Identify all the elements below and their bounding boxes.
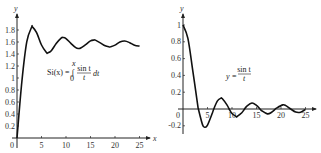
- svg-text:t: t: [243, 74, 246, 83]
- y-axis-label: y: [13, 4, 18, 13]
- y-tick-label: 1.8: [5, 26, 15, 35]
- chart-si: yx51015202500.20.40.60.811.21.41.61.8Si(…: [5, 4, 157, 150]
- chart-sinc: y5101520250-0.20.20.40.60.81y =sin tt: [168, 4, 317, 134]
- origin-label: 0: [10, 141, 14, 150]
- y-tick-label: 1.2: [5, 62, 15, 71]
- y-tick-label: 0.6: [171, 54, 181, 63]
- figure: yx51015202500.20.40.60.811.21.41.61.8Si(…: [0, 0, 321, 153]
- svg-text:t: t: [83, 73, 86, 82]
- y-tick-label: 1: [11, 74, 15, 83]
- x-tick-label: 20: [277, 111, 285, 120]
- y-tick-label: 1.4: [5, 50, 15, 59]
- x-axis-arrow-icon: [312, 107, 317, 111]
- x-tick-label: 15: [87, 141, 95, 150]
- x-tick-label: 25: [136, 141, 144, 150]
- x-tick-label: 15: [253, 111, 261, 120]
- y-axis-arrow-icon: [15, 13, 19, 18]
- x-axis-label: x: [152, 134, 157, 143]
- y-tick-label: 0.6: [5, 98, 15, 107]
- svg-text:sin t: sin t: [237, 65, 251, 74]
- y-axis-label: y: [179, 4, 184, 13]
- x-tick-label: 25: [302, 111, 310, 120]
- y-tick-label: 0.2: [5, 122, 15, 131]
- svg-text:0: 0: [70, 74, 74, 83]
- svg-text:x: x: [71, 59, 76, 68]
- y-tick-label: 0.4: [5, 110, 15, 119]
- x-tick-label: 20: [111, 141, 119, 150]
- y-axis-arrow-icon: [181, 13, 185, 18]
- x-tick-label: 10: [62, 141, 70, 150]
- y-tick-label: 0.8: [171, 37, 181, 46]
- y-tick-label: 0.8: [5, 86, 15, 95]
- x-tick-label: 5: [206, 111, 210, 120]
- si-equation: Si(x) = ∫x0sin ttdt: [47, 59, 100, 83]
- y-tick-label: -0.2: [168, 121, 181, 130]
- svg-text:sin t: sin t: [77, 64, 91, 73]
- y-tick-label: 0.2: [171, 88, 181, 97]
- svg-text:y =: y =: [225, 72, 237, 81]
- y-tick-label: 1.6: [5, 38, 15, 47]
- x-tick-label: 5: [40, 141, 44, 150]
- origin-label: 0: [176, 111, 180, 120]
- svg-text:dt: dt: [93, 69, 100, 78]
- y-tick-label: 0.4: [171, 71, 181, 80]
- y-tick-label: 1: [177, 21, 181, 30]
- data-curve: [17, 26, 140, 138]
- x-axis-arrow-icon: [146, 136, 151, 140]
- sinc-equation: y =sin tt: [225, 65, 252, 83]
